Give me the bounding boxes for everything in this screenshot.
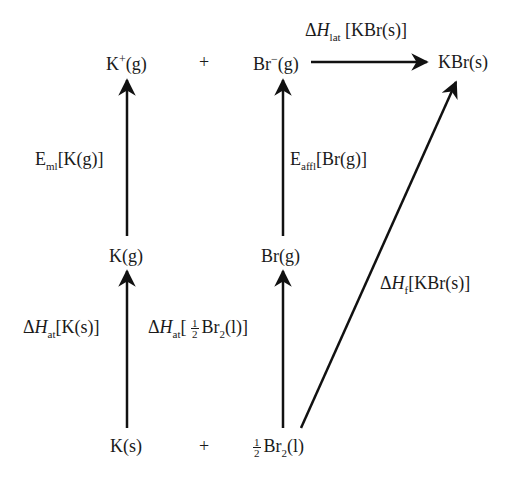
target: [K(s)]: [56, 317, 100, 337]
label-atomisation-k: ΔHat[K(s)]: [23, 318, 100, 340]
subscript: ml: [46, 160, 58, 172]
subscript: at: [48, 328, 56, 340]
delta-symbol: Δ: [23, 317, 35, 337]
species-base: Br: [202, 317, 220, 337]
species-k-gas: K(g): [109, 247, 143, 265]
species-k-ion-gas: K+(g): [106, 53, 147, 73]
label-electron-affinity: Eaffl[Br(g)]: [290, 150, 367, 172]
bracket-close: (l)]: [225, 317, 248, 337]
species-kbr-solid: KBr(s): [438, 53, 488, 71]
energy-symbol: E: [290, 149, 301, 169]
delta-symbol: Δ: [148, 317, 160, 337]
denominator: 2: [253, 448, 261, 458]
species-base: K: [106, 54, 119, 74]
arrow-formation: [301, 82, 456, 428]
species-br-gas: Br(g): [261, 247, 300, 265]
fraction-half: 12: [191, 318, 199, 339]
subscript: affl: [301, 160, 316, 172]
delta-symbol: Δ: [305, 20, 317, 40]
species-k-solid: K(s): [110, 437, 142, 455]
state-symbol: (g): [126, 54, 147, 74]
charge-superscript: −: [271, 52, 278, 66]
species-base: Br: [253, 54, 271, 74]
fraction-half: 12: [253, 437, 261, 458]
target: [KBr(s)]: [408, 273, 470, 293]
target: [KBr(s)]: [341, 20, 407, 40]
label-atomisation-br: ΔHat[ 12Br2(l)]: [148, 318, 248, 340]
species-br-ion-gas: Br−(g): [253, 53, 299, 73]
enthalpy-symbol: H: [35, 317, 48, 337]
enthalpy-symbol: H: [160, 317, 173, 337]
label-lattice-enthalpy: ΔHlat [KBr(s)]: [305, 21, 407, 43]
species-base: Br: [264, 436, 282, 456]
subscript: lat: [330, 31, 341, 43]
label-ionisation-energy: Eml[K(g)]: [35, 150, 104, 172]
species-half-br2-liquid: 12Br2(l): [253, 437, 304, 459]
target: [K(g)]: [58, 149, 104, 169]
plus-sign-bottom: +: [199, 437, 209, 455]
energy-symbol: E: [35, 149, 46, 169]
target: [Br(g)]: [316, 149, 367, 169]
enthalpy-symbol: H: [392, 273, 405, 293]
delta-symbol: Δ: [380, 273, 392, 293]
label-formation-enthalpy: ΔHf[KBr(s)]: [380, 274, 470, 296]
enthalpy-symbol: H: [317, 20, 330, 40]
charge-superscript: +: [119, 52, 126, 66]
denominator: 2: [191, 329, 199, 339]
plus-sign-top: +: [199, 53, 209, 71]
bracket-open: [: [181, 317, 192, 337]
state-symbol: (g): [278, 54, 299, 74]
state-symbol: (l): [287, 436, 304, 456]
subscript: at: [173, 328, 181, 340]
